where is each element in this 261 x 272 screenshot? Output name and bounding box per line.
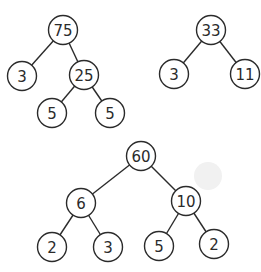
node-label: 2 — [209, 236, 219, 254]
tree-node: 3 — [94, 233, 123, 262]
tree-node: 3 — [8, 62, 37, 91]
tree-node: 5 — [145, 232, 174, 261]
tree-node: 6 — [67, 189, 96, 218]
node-label: 33 — [201, 22, 220, 40]
node-label: 60 — [131, 148, 150, 166]
tree-node: 10 — [172, 187, 201, 216]
nodes-layer: 753255533311606102352 — [8, 16, 260, 262]
tree-node: 60 — [127, 142, 156, 171]
edges-layer — [22, 30, 245, 247]
binary-trees-diagram: 753255533311606102352 — [0, 0, 261, 272]
tree-60: 606102352 — [38, 142, 229, 262]
background-smudge — [194, 162, 222, 190]
tree-node: 33 — [197, 16, 226, 45]
tree-node: 5 — [38, 99, 67, 128]
node-label: 11 — [235, 66, 254, 84]
node-label: 5 — [47, 105, 57, 123]
tree-node: 3 — [160, 60, 189, 89]
tree-node: 11 — [231, 60, 260, 89]
node-label: 25 — [74, 67, 93, 85]
node-label: 2 — [47, 239, 57, 257]
tree-node: 25 — [70, 61, 99, 90]
tree-node: 2 — [38, 233, 67, 262]
node-label: 5 — [154, 238, 164, 256]
tree-node: 75 — [49, 16, 78, 45]
node-label: 5 — [105, 105, 115, 123]
tree-node: 2 — [200, 230, 229, 259]
node-label: 75 — [53, 22, 72, 40]
node-label: 3 — [169, 66, 179, 84]
node-label: 6 — [76, 195, 86, 213]
tree-75: 7532555 — [8, 16, 125, 128]
tree-33: 33311 — [160, 16, 260, 89]
node-label: 3 — [17, 68, 27, 86]
tree-node: 5 — [96, 99, 125, 128]
node-label: 10 — [176, 193, 195, 211]
node-label: 3 — [103, 239, 113, 257]
